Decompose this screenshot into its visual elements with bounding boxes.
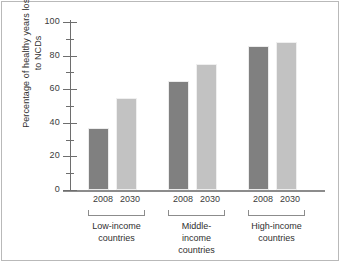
plot-area [70, 22, 325, 190]
year-label-2008: 2008 [173, 194, 193, 204]
group-year-labels: 20082030 [168, 194, 225, 204]
group-name: Middle-incomecountries [168, 220, 225, 256]
y-tick-label-40: 40 [20, 117, 60, 127]
group-year-labels: 20082030 [248, 194, 305, 204]
bar-low-income-2030 [116, 98, 137, 190]
x-axis-line [63, 190, 325, 192]
group-name-line-2: countries [168, 244, 225, 256]
y-tick-label-80: 80 [20, 50, 60, 60]
year-label-2008: 2008 [93, 194, 113, 204]
bar-middle-income-2030 [196, 64, 217, 190]
y-tick-label-100: 100 [20, 16, 60, 26]
group-bracket [168, 210, 225, 216]
bar-middle-income-2008 [168, 81, 189, 190]
y-tick-label-60: 60 [20, 83, 60, 93]
year-label-2030: 2030 [200, 194, 220, 204]
group-bracket [88, 210, 145, 216]
group-name: Low-incomecountries [88, 220, 145, 244]
group-name-line-1: Middle-income [168, 220, 225, 244]
group-name-line-1: Low-income [88, 220, 145, 232]
year-label-2030: 2030 [120, 194, 140, 204]
group-name-line-2: countries [88, 232, 145, 244]
bar-low-income-2008 [88, 128, 109, 190]
y-tick-label-20: 20 [20, 150, 60, 160]
y-tick-major-0 [63, 190, 77, 191]
group-name: High-incomecountries [248, 220, 305, 244]
chart-figure: Percentage of healthy years lost due to … [0, 0, 341, 263]
year-label-2008: 2008 [253, 194, 273, 204]
bar-high-income-2030 [276, 42, 297, 190]
y-tick-label-0: 0 [20, 184, 60, 194]
group-year-labels: 20082030 [88, 194, 145, 204]
group-name-line-2: countries [248, 232, 305, 244]
bar-high-income-2008 [248, 46, 269, 190]
year-label-2030: 2030 [280, 194, 300, 204]
group-name-line-1: High-income [248, 220, 305, 232]
group-bracket [248, 210, 305, 216]
